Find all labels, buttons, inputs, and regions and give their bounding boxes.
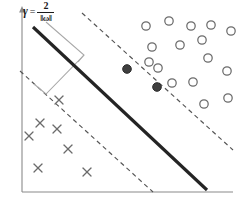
- support-vector-points: [123, 65, 162, 92]
- data-point-circle: [187, 22, 195, 30]
- data-point-circle: [145, 58, 153, 66]
- support-vector-circle: [123, 65, 132, 74]
- margin-bracket-tick: [78, 55, 84, 62]
- data-point-circle: [142, 22, 150, 30]
- support-vector-circle: [153, 83, 162, 92]
- negative-class-points: [25, 96, 91, 176]
- fraction-denominator: ‖ω‖: [39, 13, 53, 23]
- data-point-circle: [148, 43, 156, 51]
- data-point-circle: [189, 78, 197, 86]
- data-point-circle: [227, 27, 235, 35]
- decision-boundary-line: [33, 27, 207, 190]
- svm-margin-figure: γ = 2 ‖ω‖: [0, 0, 237, 208]
- positive-class-points: [142, 17, 235, 108]
- margin-bracket-path: [34, 22, 84, 94]
- data-point-circle: [198, 36, 206, 44]
- data-point-circle: [176, 41, 184, 49]
- gamma-symbol: γ: [23, 6, 28, 18]
- support-vector-cross: [55, 96, 63, 104]
- plot-canvas: [0, 0, 237, 208]
- data-point-circle: [207, 21, 215, 29]
- data-point-cross: [36, 119, 44, 127]
- margin-lines-group: [20, 13, 233, 192]
- equals-sign: =: [29, 7, 37, 17]
- data-point-circle: [154, 64, 162, 72]
- data-point-circle: [223, 67, 231, 75]
- data-point-circle: [204, 54, 212, 62]
- fraction-numerator: 2: [41, 1, 50, 12]
- data-point-circle: [224, 94, 232, 102]
- margin-fraction: 2 ‖ω‖: [37, 1, 54, 23]
- data-point-cross: [34, 164, 42, 172]
- data-point-cross: [64, 145, 72, 153]
- upper-margin-line: [82, 13, 233, 150]
- margin-bracket: [34, 22, 84, 94]
- data-point-circle: [168, 79, 176, 87]
- data-point-cross: [83, 168, 91, 176]
- margin-formula-label: γ = 2 ‖ω‖: [23, 1, 54, 23]
- data-point-cross: [25, 132, 33, 140]
- data-point-cross: [53, 125, 61, 133]
- data-point-circle: [200, 100, 208, 108]
- data-point-circle: [165, 17, 173, 25]
